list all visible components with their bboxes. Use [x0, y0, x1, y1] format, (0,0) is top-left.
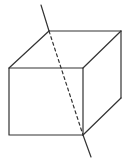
cube-diagram: Cube with a line passing through it [0, 0, 130, 158]
line-outer-top [41, 5, 49, 31]
cube-edge-top-right [83, 31, 121, 68]
cube-edge-top-left [9, 31, 49, 68]
cube-edge-bottom-right [83, 98, 121, 135]
line-hidden-dashed [49, 31, 83, 135]
line-outer-bottom [83, 135, 91, 157]
cube-line-figure [0, 0, 130, 158]
